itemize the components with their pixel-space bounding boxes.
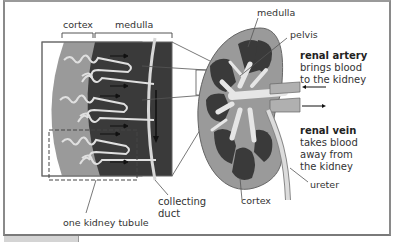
renal-vein-line3: the kidney — [300, 161, 353, 172]
renal-vein-line1: takes blood — [300, 137, 358, 148]
label-medulla-inset: medulla — [115, 19, 153, 30]
renal-artery-line1: brings blood — [300, 62, 362, 73]
label-kidney-tubule: one kidney tubule — [63, 217, 149, 228]
renal-artery-line2: to the kidney — [300, 74, 366, 85]
renal-vein-line2: away from — [300, 149, 353, 160]
label-ureter: ureter — [310, 179, 339, 190]
kidney-section — [198, 18, 326, 200]
label-collecting-duct-2: duct — [158, 208, 180, 219]
label-collecting-duct-1: collecting — [158, 196, 206, 207]
inset-section — [42, 33, 214, 213]
label-cortex-inset: cortex — [63, 19, 93, 30]
renal-vein-title: renal vein — [300, 125, 356, 136]
label-cortex: cortex — [241, 195, 271, 206]
kidney-diagram: cortex medulla collecting duct one kidne… — [0, 0, 393, 242]
label-medulla: medulla — [257, 7, 295, 18]
renal-artery-title: renal artery — [300, 50, 368, 61]
label-pelvis: pelvis — [290, 29, 318, 40]
